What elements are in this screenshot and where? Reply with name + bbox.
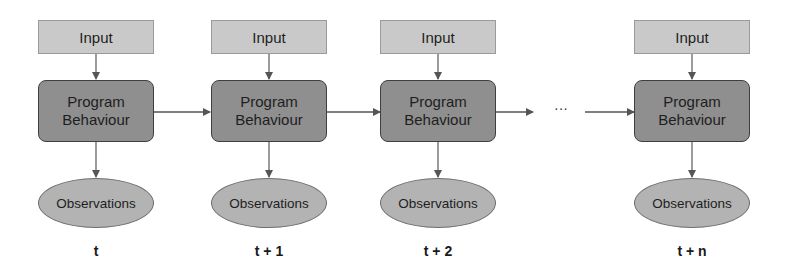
observations-ellipse-t-plus-2: Observations xyxy=(380,178,496,228)
program-label-line2: Behaviour xyxy=(658,111,726,129)
input-box-t-plus-1: Input xyxy=(211,20,327,54)
program-label-line1: Program xyxy=(67,93,125,111)
time-label-t-plus-1: t + 1 xyxy=(211,243,327,259)
program-behaviour-box-t-plus-n: Program Behaviour xyxy=(634,80,750,142)
time-label-t-plus-n: t + n xyxy=(634,243,750,259)
program-label-line1: Program xyxy=(409,93,467,111)
time-label-t-plus-2: t + 2 xyxy=(380,243,496,259)
input-box-t: Input xyxy=(38,20,154,54)
input-label: Input xyxy=(79,29,112,46)
observations-ellipse-t: Observations xyxy=(38,178,154,228)
observations-label: Observations xyxy=(398,196,478,211)
input-box-t-plus-2: Input xyxy=(380,20,496,54)
observations-label: Observations xyxy=(56,196,136,211)
ellipsis-continuation: ··· xyxy=(549,100,573,116)
program-label-line1: Program xyxy=(240,93,298,111)
time-label-t: t xyxy=(38,243,154,259)
diagram-canvas: Input Program Behaviour Observations t I… xyxy=(0,0,787,275)
program-label-line2: Behaviour xyxy=(62,111,130,129)
observations-label: Observations xyxy=(229,196,309,211)
program-label-line1: Program xyxy=(663,93,721,111)
observations-ellipse-t-plus-1: Observations xyxy=(211,178,327,228)
program-behaviour-box-t-plus-1: Program Behaviour xyxy=(211,80,327,142)
input-label: Input xyxy=(421,29,454,46)
observations-ellipse-t-plus-n: Observations xyxy=(634,178,750,228)
input-label: Input xyxy=(252,29,285,46)
program-behaviour-box-t: Program Behaviour xyxy=(38,80,154,142)
input-label: Input xyxy=(675,29,708,46)
input-box-t-plus-n: Input xyxy=(634,20,750,54)
program-label-line2: Behaviour xyxy=(404,111,472,129)
observations-label: Observations xyxy=(652,196,732,211)
program-label-line2: Behaviour xyxy=(235,111,303,129)
program-behaviour-box-t-plus-2: Program Behaviour xyxy=(380,80,496,142)
